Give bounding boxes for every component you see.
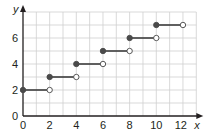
x-tick-label: 4	[73, 119, 79, 131]
open-endpoint	[180, 22, 185, 27]
x-tick-label: 0	[20, 119, 26, 131]
x-tick-label: 12	[175, 119, 187, 131]
y-tick-label: 0	[12, 110, 18, 122]
x-tick-label: 2	[47, 119, 53, 131]
step-function-chart: xy0246810120246	[0, 0, 208, 138]
open-endpoint	[100, 61, 105, 66]
closed-endpoint	[154, 22, 159, 27]
axes	[20, 5, 203, 119]
open-endpoint	[74, 74, 79, 79]
closed-endpoint	[20, 87, 25, 92]
closed-endpoint	[100, 48, 105, 53]
y-axis-arrow-icon	[20, 5, 26, 12]
grid-lines	[23, 12, 196, 116]
closed-endpoint	[74, 61, 79, 66]
closed-endpoint	[127, 35, 132, 40]
y-tick-label: 4	[12, 58, 18, 70]
open-endpoint	[47, 87, 52, 92]
tick-labels: xy0246810120246	[12, 3, 200, 131]
x-tick-label: 10	[150, 119, 162, 131]
open-endpoint	[154, 35, 159, 40]
y-tick-label: 6	[12, 32, 18, 44]
x-axis-label: x	[193, 119, 200, 131]
x-tick-label: 8	[127, 119, 133, 131]
open-endpoint	[127, 48, 132, 53]
closed-endpoint	[47, 74, 52, 79]
y-axis-label: y	[12, 3, 20, 15]
x-tick-label: 6	[100, 119, 106, 131]
y-tick-label: 2	[12, 84, 18, 96]
